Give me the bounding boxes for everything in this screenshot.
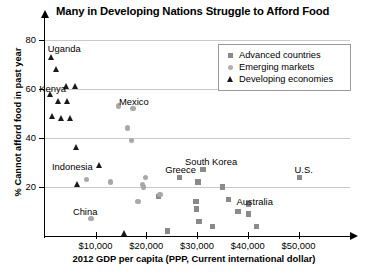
data-point	[96, 162, 102, 168]
legend-label: Developing economies	[239, 74, 333, 84]
y-axis-title: % Cannot afford food in past year	[13, 22, 23, 222]
y-tick-label: 80	[10, 34, 36, 45]
legend-item-advanced-countries[interactable]: Advanced countries	[225, 49, 345, 61]
y-tick	[39, 40, 45, 41]
data-point	[297, 175, 302, 180]
data-point	[193, 199, 198, 204]
data-point	[210, 224, 215, 229]
legend: Advanced countries Emerging markets Deve…	[218, 44, 351, 91]
data-point-label: Uganda	[48, 43, 81, 54]
x-tick-label: $50,000	[269, 240, 329, 251]
data-point	[64, 98, 70, 104]
data-point	[84, 177, 89, 182]
data-point-label: Mexico	[119, 96, 149, 107]
data-point	[129, 138, 134, 143]
x-axis-arrow-icon	[350, 232, 358, 240]
square-marker-icon	[225, 53, 235, 58]
x-tick	[96, 232, 97, 239]
data-point	[108, 179, 113, 184]
x-tick	[197, 232, 198, 239]
data-point	[220, 184, 225, 189]
data-point	[125, 125, 130, 130]
data-point	[141, 184, 146, 189]
data-point	[88, 216, 93, 221]
chart-title: Many in Developing Nations Struggle to A…	[56, 5, 356, 17]
data-point	[177, 175, 182, 180]
y-tick-label: 60	[10, 83, 36, 94]
legend-item-developing-economies[interactable]: Developing economies	[225, 73, 345, 85]
data-point	[143, 175, 148, 180]
data-point	[135, 199, 140, 204]
gridline	[44, 40, 350, 41]
data-point	[226, 197, 231, 202]
gridline	[44, 187, 350, 188]
data-point	[200, 167, 205, 172]
data-point	[235, 209, 240, 214]
legend-label: Advanced countries	[239, 50, 321, 60]
data-point-label: U.S.	[295, 164, 313, 175]
data-point	[72, 83, 78, 89]
y-tick	[39, 138, 45, 139]
data-point	[196, 219, 201, 224]
data-point	[48, 54, 54, 60]
data-point	[254, 224, 259, 229]
data-point	[246, 211, 251, 216]
x-axis-title: 2012 GDP per capita (PPP, Current intern…	[44, 253, 344, 264]
data-point	[53, 66, 59, 72]
x-tick	[146, 232, 147, 239]
data-point	[74, 181, 80, 187]
data-point	[165, 228, 170, 233]
legend-label: Emerging markets	[239, 62, 314, 72]
data-point	[195, 179, 200, 184]
data-point	[67, 115, 73, 121]
data-point-label: Indonesia	[52, 161, 93, 172]
x-tick	[299, 232, 300, 239]
y-tick	[39, 187, 45, 188]
gridline	[44, 138, 350, 139]
data-point	[58, 115, 64, 121]
data-point-label: South Korea	[185, 156, 237, 167]
data-point	[49, 113, 55, 119]
data-point	[121, 230, 127, 236]
data-point-label: Australia	[236, 196, 272, 207]
circle-marker-icon	[225, 65, 235, 70]
triangle-marker-icon	[225, 76, 235, 82]
data-point	[73, 144, 79, 150]
data-point	[157, 192, 162, 197]
chart-root: Many in Developing Nations Struggle to A…	[0, 0, 368, 275]
y-tick-label: 40	[10, 132, 36, 143]
y-axis-arrow-icon	[41, 10, 49, 18]
data-point-label: China	[73, 206, 98, 217]
data-point	[130, 106, 135, 111]
data-point-label: Kenya	[39, 83, 66, 94]
y-axis-line	[44, 18, 45, 238]
x-tick	[248, 232, 249, 239]
data-point	[194, 206, 199, 211]
legend-item-emerging-markets[interactable]: Emerging markets	[225, 61, 345, 73]
y-tick-label: 20	[10, 181, 36, 192]
data-point	[55, 98, 61, 104]
